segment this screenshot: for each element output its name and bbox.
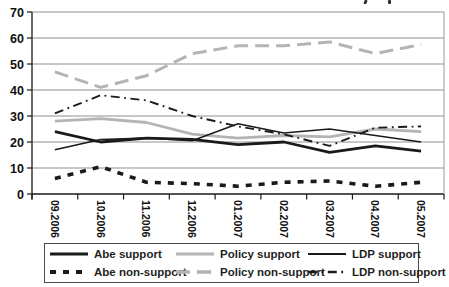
x-tick-label: 04.2007 xyxy=(369,200,381,238)
legend-label: Abe non-support xyxy=(94,266,187,278)
x-tick-label: 11.2006 xyxy=(140,200,152,238)
legend-item-ldp-support: LDP support xyxy=(307,248,424,260)
x-tick-label: 01.2007 xyxy=(232,200,244,238)
legend-swatch-ldp-support xyxy=(307,248,347,260)
legend-label: LDP support xyxy=(352,248,421,260)
legend-swatch-abe-support xyxy=(49,248,89,260)
y-tick-label: 60 xyxy=(10,32,24,46)
legend-item-policy-support: Policy support xyxy=(175,248,307,260)
legend-swatch-ldp-non-support xyxy=(307,266,347,278)
series-line-policy-support xyxy=(55,119,421,139)
series-line-policy-non-support xyxy=(55,42,421,88)
y-tick-label: 50 xyxy=(10,58,24,72)
legend-item-ldp-non-support: LDP non-support xyxy=(307,266,424,278)
legend-item-abe-support: Abe support xyxy=(49,248,175,260)
legend-item-policy-non-support: Policy non-support xyxy=(175,266,307,278)
chart-figure: 01020304050607009.200610.200611.200612.2… xyxy=(0,0,449,287)
legend-label: Abe support xyxy=(94,248,162,260)
legend-label: LDP non-support xyxy=(352,266,446,278)
x-tick-label: 10.2006 xyxy=(95,200,107,238)
y-tick-label: 30 xyxy=(10,110,24,124)
legend-swatch-abe-non-support xyxy=(49,266,89,278)
legend-swatch-policy-non-support xyxy=(175,266,215,278)
legend-label: Policy support xyxy=(220,248,300,260)
x-tick-label: 03.2007 xyxy=(324,200,336,238)
legend-item-abe-non-support: Abe non-support xyxy=(49,266,175,278)
line-chart-canvas: 01020304050607009.200610.200611.200612.2… xyxy=(0,0,449,242)
y-tick-label: 20 xyxy=(10,136,24,150)
x-tick-label: 12.2006 xyxy=(186,200,198,238)
y-tick-label: 0 xyxy=(17,188,24,202)
legend-swatch-policy-support xyxy=(175,248,215,260)
x-tick-label: 02.2007 xyxy=(278,200,290,238)
y-tick-label: 70 xyxy=(10,6,24,20)
chart-legend: Abe supportPolicy supportLDP supportAbe … xyxy=(44,243,419,283)
series-line-abe-non-support xyxy=(55,167,421,187)
clipped-text-fragment xyxy=(362,0,396,5)
y-tick-label: 10 xyxy=(10,162,24,176)
x-tick-label: 09.2006 xyxy=(49,200,61,238)
x-tick-label: 05.2007 xyxy=(415,200,427,238)
y-tick-label: 40 xyxy=(10,84,24,98)
